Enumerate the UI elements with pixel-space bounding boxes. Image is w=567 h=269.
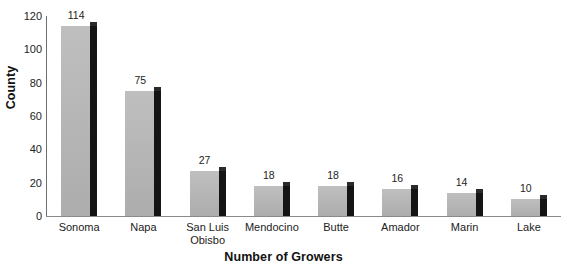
x-axis-category-label: Mendocino bbox=[240, 221, 304, 234]
y-axis-tick-label: 120 bbox=[18, 11, 42, 22]
bar-side-shadow bbox=[154, 91, 161, 216]
bar-top-bevel bbox=[476, 189, 483, 193]
bar-top-bevel bbox=[540, 195, 547, 199]
bar-top-bevel bbox=[219, 167, 226, 171]
bar-front-face bbox=[61, 26, 90, 216]
bar-front-face bbox=[190, 171, 219, 216]
x-axis-line bbox=[46, 216, 561, 217]
y-axis-tick-label: 20 bbox=[18, 177, 42, 188]
bar-top-bevel bbox=[154, 87, 161, 91]
bar-side-shadow bbox=[90, 26, 97, 216]
x-axis-category-label: Amador bbox=[368, 221, 432, 234]
x-axis-category-label: San Luis Obisbo bbox=[176, 221, 240, 246]
bar[interactable]: 14 bbox=[447, 193, 476, 216]
plot-area: 11475271818161410 bbox=[47, 16, 561, 216]
bar-value-label: 18 bbox=[248, 170, 290, 181]
y-axis-tick-label: 60 bbox=[18, 111, 42, 122]
bar-slot: 14 bbox=[433, 16, 497, 216]
bar-side-shadow bbox=[540, 199, 547, 216]
y-axis-tick-label: 0 bbox=[18, 211, 42, 222]
bar-side-shadow bbox=[219, 171, 226, 216]
bar[interactable]: 18 bbox=[318, 186, 347, 216]
bar-value-label: 75 bbox=[119, 75, 161, 86]
bar-slot: 18 bbox=[304, 16, 368, 216]
bar-value-label: 14 bbox=[441, 177, 483, 188]
bar-value-label: 27 bbox=[184, 155, 226, 166]
bar-front-face bbox=[511, 199, 540, 216]
x-axis-category-label: Napa bbox=[111, 221, 175, 234]
bar-top-bevel bbox=[90, 22, 97, 26]
y-axis-tick-label: 100 bbox=[18, 44, 42, 55]
y-axis-tick-label: 80 bbox=[18, 77, 42, 88]
y-axis-tick-labels: 020406080100120 bbox=[18, 0, 42, 269]
bar-slot: 114 bbox=[47, 16, 111, 216]
bar-top-bevel bbox=[411, 185, 418, 189]
bar-slot: 10 bbox=[497, 16, 561, 216]
bar-side-shadow bbox=[411, 189, 418, 216]
bar-top-bevel bbox=[283, 182, 290, 186]
x-axis-category-label: Marin bbox=[433, 221, 497, 234]
bar-front-face bbox=[447, 193, 476, 216]
bar-side-shadow bbox=[476, 193, 483, 216]
bar-side-shadow bbox=[347, 186, 354, 216]
bar[interactable]: 16 bbox=[382, 189, 411, 216]
bar-slot: 18 bbox=[240, 16, 304, 216]
bar-value-label: 16 bbox=[376, 173, 418, 184]
bar-front-face bbox=[382, 189, 411, 216]
x-axis-category-label: Sonoma bbox=[47, 221, 111, 234]
bar[interactable]: 10 bbox=[511, 199, 540, 216]
bar-value-label: 18 bbox=[312, 170, 354, 181]
bar[interactable]: 27 bbox=[190, 171, 219, 216]
bar-front-face bbox=[125, 91, 154, 216]
bar-side-shadow bbox=[283, 186, 290, 216]
x-axis-category-label: Butte bbox=[304, 221, 368, 234]
x-axis-title: Number of Growers bbox=[0, 250, 567, 264]
bar-chart: County 020406080100120 11475271818161410… bbox=[0, 0, 567, 269]
bar-top-bevel bbox=[347, 182, 354, 186]
bar-slot: 27 bbox=[176, 16, 240, 216]
bar-value-label: 10 bbox=[505, 183, 547, 194]
bar-front-face bbox=[318, 186, 347, 216]
bar[interactable]: 114 bbox=[61, 26, 90, 216]
y-axis-tick-label: 40 bbox=[18, 144, 42, 155]
bar-value-label: 114 bbox=[55, 10, 97, 21]
bar-front-face bbox=[254, 186, 283, 216]
bar-slot: 16 bbox=[368, 16, 432, 216]
bar[interactable]: 75 bbox=[125, 91, 154, 216]
bar-slot: 75 bbox=[111, 16, 175, 216]
x-axis-category-label: Lake bbox=[497, 221, 561, 234]
bar[interactable]: 18 bbox=[254, 186, 283, 216]
